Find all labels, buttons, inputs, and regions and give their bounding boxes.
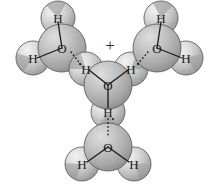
water-top-left-oxygen-label: O xyxy=(57,41,66,56)
charge-sign-layer: + xyxy=(105,36,115,55)
molecule-diagram-canvas: OHHOHHHOHHOHH + xyxy=(0,0,215,186)
molecular-diagram-figure: OHHOHHHOHHOHH + xyxy=(0,0,215,186)
hydronium-center-hydrogen-label-3: H xyxy=(103,105,112,120)
water-top-right-hydrogen-label-2: H xyxy=(181,51,190,66)
water-top-left-hydrogen-label-1: H xyxy=(53,11,62,26)
molecule-water-top-right xyxy=(133,1,203,75)
water-bottom-oxygen-label: O xyxy=(103,140,112,155)
water-bottom-hydrogen-label-1: H xyxy=(77,157,86,172)
charge-sign-plus: + xyxy=(105,36,115,55)
hydronium-center-hydrogen-label-2: H xyxy=(126,62,135,77)
hydronium-center-hydrogen-label-1: H xyxy=(81,62,90,77)
water-top-left-hydrogen-label-2: H xyxy=(28,51,37,66)
hydronium-center-oxygen-label: O xyxy=(103,78,112,93)
dot-h-right xyxy=(137,63,139,65)
water-top-right-hydrogen-label-1: H xyxy=(156,11,165,26)
water-top-right-oxygen-label: O xyxy=(152,41,161,56)
water-bottom-hydrogen-label-2: H xyxy=(129,157,138,172)
